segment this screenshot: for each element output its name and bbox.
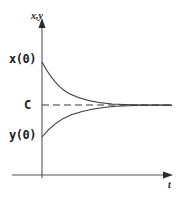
lower-curve-y — [42, 105, 172, 137]
upper-initial-value-label: x(0) — [9, 53, 36, 65]
x-axis-label: t — [168, 180, 171, 190]
lower-initial-value-label: y(0) — [9, 129, 36, 141]
upper-curve-x — [42, 62, 172, 105]
exponential-convergence-diagram: x,y x(0) C y(0) t — [0, 0, 186, 200]
y-axis-label: x,y — [31, 11, 43, 21]
x-axis-arrowhead — [163, 172, 173, 179]
asymptote-label: C — [24, 99, 31, 111]
